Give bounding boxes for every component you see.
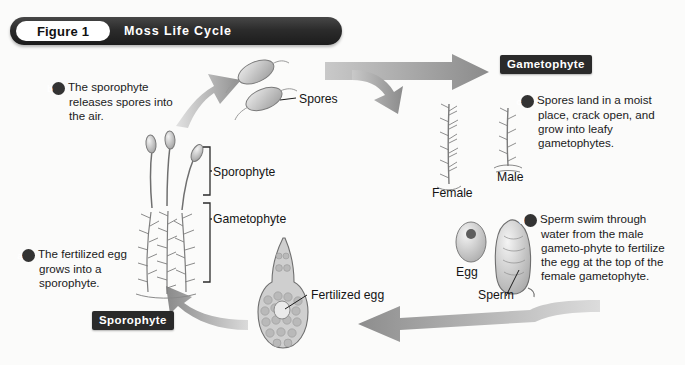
- spores-illustration: [226, 55, 297, 120]
- step-a-badge: a: [22, 249, 35, 262]
- section-tag-gametophyte: Gametophyte: [500, 55, 592, 74]
- bracket-sporophyte: [203, 147, 212, 195]
- label-female: Female: [432, 186, 473, 200]
- sporophyte-stalks: [151, 146, 195, 210]
- step-c-badge: c: [521, 95, 534, 108]
- arrow-sporophyte-to-spores: [176, 74, 241, 128]
- arrow-gametophyte-to-fertilized-egg: [358, 300, 600, 342]
- male-gametophyte-illustration: [494, 108, 522, 172]
- step-d: dSperm swim through water from the male …: [524, 212, 676, 283]
- label-male: Male: [497, 170, 523, 184]
- egg-cell-illustration: [456, 222, 486, 262]
- label-spores: Spores: [299, 92, 338, 106]
- label-fertilized-egg: Fertilized egg: [311, 288, 384, 302]
- label-bracket-gametophyte: Gametophyte: [213, 212, 286, 226]
- female-gametophyte-illustration: [437, 104, 461, 190]
- bracket-gametophyte: [203, 203, 212, 282]
- label-sperm: Sperm: [478, 288, 514, 302]
- step-b-text: The sporophyte releases spores into the …: [68, 80, 173, 122]
- section-tag-sporophyte: Sporophyte: [92, 311, 174, 330]
- fertilized-egg-illustration: [258, 238, 308, 348]
- arrow-fertilized-egg-to-sporophyte: [166, 286, 248, 330]
- step-d-text: Sperm swim through water from the male g…: [540, 212, 665, 282]
- arrow-spores-to-gametophyte: [325, 54, 489, 114]
- step-a: aThe fertilized egg grows into a sporoph…: [22, 247, 154, 290]
- label-egg: Egg: [456, 265, 478, 279]
- step-d-badge: d: [524, 214, 537, 227]
- figure-canvas: Figure 1 Moss Life Cycle: [0, 0, 685, 365]
- label-bracket-sporophyte: Sporophyte: [213, 165, 275, 179]
- step-a-text: The fertilized egg grows into a sporophy…: [38, 247, 127, 289]
- sporophyte-capsules: [145, 131, 205, 164]
- step-b: bThe sporophyte releases spores into the…: [52, 80, 182, 123]
- step-b-badge: b: [52, 82, 65, 95]
- step-c: cSpores land in a moist place, crack ope…: [521, 93, 671, 150]
- step-c-text: Spores land in a moist place, crack open…: [537, 93, 655, 149]
